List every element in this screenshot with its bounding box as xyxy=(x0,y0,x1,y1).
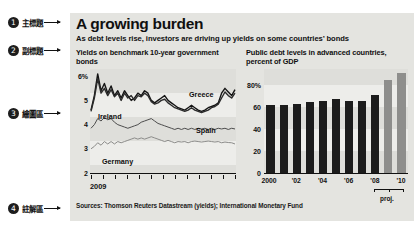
x-tick-mark xyxy=(91,175,92,179)
bar-2000 xyxy=(266,105,274,173)
annotation-label: 繪圖區 xyxy=(22,108,42,119)
x-tick-label: '06 xyxy=(344,177,353,184)
bar-08 xyxy=(371,95,379,173)
infographic-panel: A growing burden As debt levels rise, in… xyxy=(70,13,414,221)
annotation-callout-1: 1 主標題 xyxy=(8,17,60,28)
x-tick-mark xyxy=(151,175,152,179)
y-tick-label: 60 xyxy=(246,104,261,111)
y-tick-label: 3 xyxy=(76,145,88,152)
x-tick-mark xyxy=(139,175,140,179)
x-tick-mark xyxy=(211,175,212,179)
bracket-tick-left xyxy=(374,189,375,192)
y-tick-label: 0 xyxy=(246,170,261,177)
chart-left-title: Yields on benchmark 10-year government b… xyxy=(76,48,226,66)
annotation-label: 副標題 xyxy=(22,45,42,56)
line-chart-bond-yields: 6%5432 2009 Greece Ireland Spain Germany xyxy=(76,69,236,195)
x-tick-mark xyxy=(163,175,164,179)
line-chart-x-axis xyxy=(90,173,236,174)
x-tick-mark xyxy=(187,175,188,179)
bar-06 xyxy=(345,101,353,173)
bar-04 xyxy=(319,101,327,173)
arrow-right-icon xyxy=(44,22,60,23)
bar-01 xyxy=(280,105,288,173)
annotation-number: 1 xyxy=(8,17,19,28)
page-subtitle: As debt levels rise, investors are drivi… xyxy=(76,34,349,43)
x-tick-mark xyxy=(103,175,104,179)
chart-right-title: Public debt levels in advanced countries… xyxy=(246,48,406,66)
series-line-ireland xyxy=(91,79,235,113)
bar-10 xyxy=(397,73,405,173)
series-label-germany: Germany xyxy=(102,158,133,165)
arrow-right-icon xyxy=(44,50,60,51)
annotation-number: 3 xyxy=(8,108,19,119)
arrow-right-icon xyxy=(44,113,60,114)
annotation-label: 註解區 xyxy=(22,203,42,214)
x-tick-label: '08 xyxy=(370,177,379,184)
x-axis-label: 2009 xyxy=(90,183,106,190)
x-tick-label: 2000 xyxy=(262,177,277,184)
annotation-label: 主標題 xyxy=(22,17,42,28)
bracket-tick-right xyxy=(403,189,404,192)
series-line-germany xyxy=(91,137,235,149)
bar-chart-x-axis xyxy=(264,173,408,174)
bar-chart-bars xyxy=(264,69,408,173)
series-label-ireland: Ireland xyxy=(98,113,122,120)
x-tick-mark xyxy=(115,175,116,179)
page-title: A growing burden xyxy=(76,15,203,33)
x-tick-label: '10 xyxy=(396,177,405,184)
projection-label: proj. xyxy=(380,195,394,202)
y-tick-label: 20 xyxy=(246,148,261,155)
annotation-callout-2: 2 副標題 xyxy=(8,45,60,56)
series-label-greece: Greece xyxy=(189,91,213,98)
y-tick-label: 80% xyxy=(246,82,261,89)
bar-chart-plot-area xyxy=(264,69,408,173)
bar-02 xyxy=(293,104,301,173)
x-tick-label: '04 xyxy=(318,177,327,184)
y-tick-label: 40 xyxy=(246,126,261,133)
annotation-number: 4 xyxy=(8,203,19,214)
bracket-stem xyxy=(389,189,390,192)
x-tick-mark xyxy=(175,175,176,179)
arrow-right-icon xyxy=(44,208,60,209)
bar-03 xyxy=(306,102,314,173)
y-tick-label: 4 xyxy=(76,121,88,128)
x-tick-mark xyxy=(199,175,200,179)
bar-07 xyxy=(358,101,366,173)
x-tick-label: '02 xyxy=(292,177,301,184)
source-note: Sources: Thomson Reuters Datastream (yie… xyxy=(76,202,303,209)
x-tick-mark xyxy=(235,175,236,179)
y-tick-label: 2 xyxy=(76,170,88,177)
annotation-number: 2 xyxy=(8,45,19,56)
series-label-spain: Spain xyxy=(196,127,216,134)
y-tick-label: 5 xyxy=(76,97,88,104)
x-tick-mark xyxy=(127,175,128,179)
bar-09 xyxy=(384,80,392,173)
x-tick-mark xyxy=(223,175,224,179)
annotation-callout-3: 3 繪圖區 xyxy=(8,108,60,119)
bar-05 xyxy=(332,99,340,173)
annotation-callout-4: 4 註解區 xyxy=(8,203,60,214)
bar-chart-public-debt: 80%6040200 2000'02'04'06'08'10 proj. xyxy=(246,69,408,195)
y-tick-label: 6% xyxy=(76,73,88,80)
